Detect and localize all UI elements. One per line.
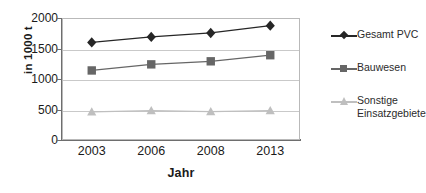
y-axis-tick-mark	[56, 110, 62, 111]
data-point-marker	[147, 60, 155, 68]
legend-shape-triangle-icon	[340, 97, 348, 105]
series-sonstige-einsatzgebiete	[87, 106, 275, 115]
series-bauwesen	[88, 51, 275, 75]
y-axis-tick-mark	[56, 49, 62, 50]
legend-label: Gesamt PVC	[357, 28, 418, 41]
y-axis-tick-mark	[56, 18, 62, 19]
y-axis-tick-label: 1500	[18, 43, 58, 55]
legend-item[interactable]: Bauwesen	[331, 61, 425, 75]
series-line	[92, 111, 271, 112]
legend-label: Sonstige Einsatzgebiete	[357, 94, 426, 119]
data-point-marker	[88, 66, 96, 74]
y-axis-tick-mark	[56, 79, 62, 80]
series-line	[92, 26, 271, 43]
legend-item[interactable]: Sonstige Einsatzgebiete	[331, 94, 425, 119]
legend-marker-triangle-icon	[331, 95, 357, 108]
data-point-marker	[266, 20, 275, 30]
legend-label: Bauwesen	[357, 61, 406, 74]
legend-marker-square-icon	[331, 62, 357, 75]
y-axis-tick-labels: 0500100015002000	[18, 0, 58, 193]
x-axis-tick-label: 2006	[121, 144, 181, 159]
series-line	[92, 55, 271, 70]
series-gesamt-pvc	[87, 20, 275, 47]
x-axis-tick-label: 2013	[240, 144, 300, 159]
y-axis-tick-label: 1000	[18, 73, 58, 85]
legend-shape-diamond-icon	[339, 31, 347, 39]
data-point-marker	[147, 32, 156, 42]
series-layer	[62, 18, 300, 140]
x-axis-title: Jahr	[62, 166, 300, 180]
y-axis-tick-mark	[56, 140, 62, 141]
x-axis-tick-labels: 2003200620082013	[62, 144, 300, 162]
y-axis-tick-label: 500	[18, 104, 58, 116]
data-point-marker	[207, 57, 215, 65]
data-point-marker	[87, 37, 96, 47]
legend-marker-diamond-icon	[331, 29, 357, 42]
data-point-marker	[206, 28, 215, 38]
x-axis-tick-label: 2008	[181, 144, 241, 159]
data-point-marker	[266, 51, 274, 59]
legend-item[interactable]: Gesamt PVC	[331, 28, 425, 42]
legend-shape-square-icon	[340, 65, 347, 72]
x-axis-tick-label: 2003	[62, 144, 122, 159]
y-axis-tick-label: 2000	[18, 12, 58, 24]
y-axis-tick-label: 0	[18, 134, 58, 146]
